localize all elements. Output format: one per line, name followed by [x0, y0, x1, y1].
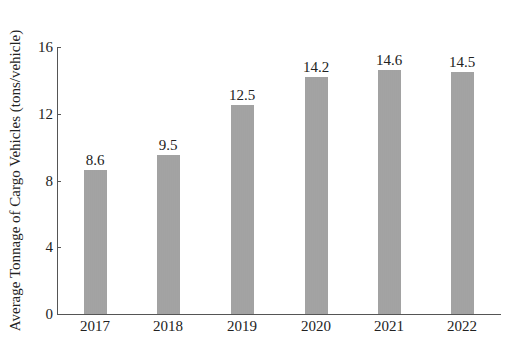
y-tick-mark	[57, 47, 61, 48]
y-tick-mark	[57, 247, 61, 248]
bar-value-label: 14.2	[291, 59, 341, 75]
y-tick-label: 12	[23, 106, 53, 122]
y-tick-label: 8	[23, 173, 53, 189]
bar-2017	[84, 170, 107, 314]
bar-value-label: 9.5	[143, 137, 193, 153]
y-tick-label: 4	[23, 239, 53, 255]
y-tick-mark	[57, 314, 61, 315]
bar-2019	[231, 105, 254, 314]
x-axis-line	[57, 314, 501, 315]
bar-value-label: 14.6	[364, 52, 414, 68]
bar-chart: 0481216 8.620179.5201812.5201914.2202014…	[0, 0, 516, 360]
x-tick-label: 2018	[143, 318, 193, 334]
x-tick-label: 2021	[364, 318, 414, 334]
y-tick-mark	[57, 114, 61, 115]
y-tick-mark	[57, 181, 61, 182]
y-tick-label: 0	[23, 306, 53, 322]
x-tick-label: 2020	[291, 318, 341, 334]
bar-value-label: 12.5	[217, 87, 267, 103]
bar-value-label: 8.6	[70, 152, 120, 168]
x-tick-label: 2019	[217, 318, 267, 334]
bar-2018	[157, 155, 180, 314]
y-axis-label: Average Tonnage of Cargo Vehicles (tons/…	[7, 16, 24, 346]
x-tick-label: 2017	[70, 318, 120, 334]
x-tick-label: 2022	[437, 318, 487, 334]
y-tick-label: 16	[23, 39, 53, 55]
bar-2022	[451, 72, 474, 314]
bar-2020	[305, 77, 328, 314]
bar-2021	[378, 70, 401, 314]
bar-value-label: 14.5	[437, 54, 487, 70]
